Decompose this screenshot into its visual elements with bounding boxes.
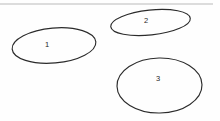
ellipse-label-2: 2: [144, 17, 148, 25]
ellipse-shape-2[interactable]: [109, 6, 191, 39]
ellipse-label-1: 1: [45, 41, 49, 49]
diagram-canvas: 1 2 3: [0, 0, 220, 121]
ellipse-shape-1[interactable]: [11, 24, 98, 66]
ellipse-label-3: 3: [156, 75, 160, 83]
ellipse-shape-3[interactable]: [117, 57, 203, 113]
diagram-svg: [0, 0, 220, 121]
